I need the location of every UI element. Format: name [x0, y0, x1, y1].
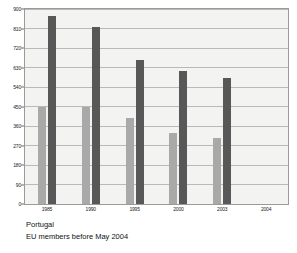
gridline — [25, 165, 288, 166]
y-axis-tick-label: 180 — [13, 162, 21, 168]
gridline — [25, 28, 288, 29]
gridline — [25, 126, 288, 127]
y-axis-tick-label: 630 — [13, 65, 21, 71]
y-axis-tick-label: 720 — [13, 45, 21, 51]
bar-portugal-2003 — [213, 138, 221, 204]
plot-area — [24, 8, 289, 205]
y-axis-tick-label: 810 — [13, 26, 21, 32]
bar-portugal-1985 — [38, 107, 46, 205]
plot-inner — [25, 9, 288, 204]
gridline — [25, 204, 288, 205]
x-axis-tick-label: 1995 — [129, 206, 139, 212]
x-axis-tick-label: 1990 — [86, 206, 96, 212]
x-axis: 198519901995200020032004 — [24, 205, 289, 217]
legend-entry-eu-members: EU members before May 2004 — [26, 231, 128, 243]
gridline — [25, 48, 288, 49]
y-axis-tick-label: 270 — [13, 143, 21, 149]
bar-group — [38, 9, 56, 204]
chart-legend: Portugal EU members before May 2004 — [26, 219, 128, 243]
bar-eu-members-1985 — [48, 16, 56, 205]
bar-portugal-1995 — [126, 118, 134, 204]
x-axis-tick-label: 2003 — [217, 206, 227, 212]
bar-group — [169, 9, 187, 204]
gridline — [25, 9, 288, 10]
bar-group — [126, 9, 144, 204]
gridline — [25, 106, 288, 107]
x-axis-tick-label: 1985 — [42, 206, 52, 212]
bar-portugal-2000 — [169, 133, 177, 205]
y-axis: 090180270360450540630720810900 — [0, 8, 24, 205]
chart-container: 090180270360450540630720810900 198519901… — [0, 0, 297, 253]
bar-eu-members-2003 — [223, 78, 231, 204]
x-axis-tick-label: 2004 — [261, 206, 271, 212]
bar-group — [213, 9, 231, 204]
gridline — [25, 184, 288, 185]
bar-portugal-1990 — [82, 107, 90, 205]
y-axis-tick-label: 450 — [13, 104, 21, 110]
x-axis-tick-label: 2000 — [173, 206, 183, 212]
legend-entry-portugal: Portugal — [26, 219, 128, 231]
bar-eu-members-1990 — [92, 27, 100, 204]
gridline — [25, 87, 288, 88]
bar-eu-members-1995 — [136, 60, 144, 204]
bar-group — [82, 9, 100, 204]
y-axis-tick-label: 540 — [13, 84, 21, 90]
gridline — [25, 145, 288, 146]
y-axis-tick-label: 360 — [13, 123, 21, 129]
y-axis-tick-label: 900 — [13, 6, 21, 12]
gridline — [25, 67, 288, 68]
bar-eu-members-2000 — [179, 71, 187, 204]
